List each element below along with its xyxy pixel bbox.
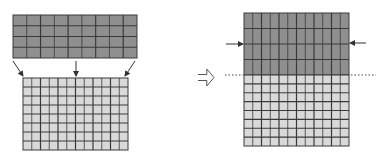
fine-grid-left	[23, 78, 128, 150]
coarse-grid-left	[13, 15, 137, 58]
mapping-arrows	[13, 61, 135, 76]
fine-region-right	[244, 75, 349, 146]
hollow-right-arrow-icon	[198, 69, 214, 86]
coarse-region-right	[244, 13, 349, 75]
grid-refinement-diagram	[0, 0, 378, 162]
hollow-arrow-shape	[198, 69, 214, 86]
mapping-arrow-icon	[13, 61, 23, 76]
mapping-arrow-icon	[125, 61, 135, 76]
